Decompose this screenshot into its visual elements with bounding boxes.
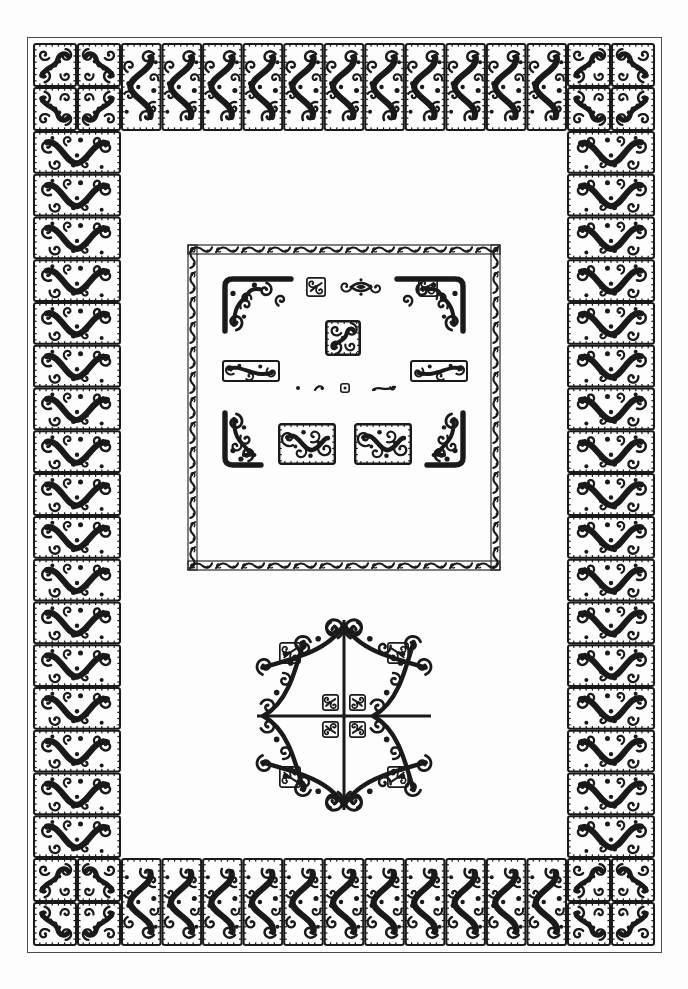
- notch-tick: [117, 49, 120, 50]
- notch-tick: [95, 854, 96, 857]
- bead-right: [476, 896, 481, 901]
- notch-tick: [610, 218, 611, 221]
- block-bead-top: [301, 430, 306, 435]
- notch-tick: [95, 512, 96, 515]
- notch-tick: [641, 341, 642, 344]
- notch-tick: [568, 180, 571, 181]
- border-tile-right: [568, 645, 654, 686]
- notch-tick: [568, 870, 571, 871]
- notch-tick: [604, 645, 605, 648]
- notch-tick: [365, 939, 368, 940]
- spiral-eye: [641, 911, 644, 914]
- notch-tick: [58, 769, 59, 772]
- rosette-core: [631, 63, 636, 68]
- spiral-eye: [67, 525, 70, 528]
- notch-tick: [573, 641, 574, 644]
- notch-tick: [34, 889, 37, 890]
- notch-tick: [545, 859, 546, 862]
- spiral-eye: [315, 78, 318, 81]
- notch-tick: [442, 74, 445, 75]
- notch-tick: [117, 351, 120, 352]
- notch-tick: [607, 55, 610, 56]
- notch-tick: [58, 898, 59, 901]
- notch-tick: [117, 80, 120, 81]
- notch-tick: [180, 942, 181, 945]
- spiral-eye: [330, 94, 333, 97]
- notch-tick: [89, 641, 90, 644]
- notch-tick: [651, 162, 654, 163]
- notch-tick: [117, 736, 120, 737]
- notch-tick: [95, 773, 96, 776]
- notch-tick: [101, 683, 102, 686]
- notch-tick: [361, 920, 364, 921]
- notch-tick: [180, 859, 181, 862]
- border-tile-s-vertical: [244, 44, 283, 130]
- notch-tick: [78, 870, 81, 871]
- notch-tick: [89, 218, 90, 221]
- notch-tick: [34, 810, 37, 811]
- notch-tick: [623, 175, 624, 178]
- notch-tick: [58, 903, 59, 906]
- notch-tick: [101, 256, 102, 259]
- notch-tick: [52, 341, 53, 344]
- notch-tick: [320, 86, 323, 87]
- notch-tick: [568, 712, 571, 713]
- notch-tick: [442, 105, 445, 106]
- bead-ll: [530, 875, 534, 879]
- spiral-eye: [67, 268, 70, 271]
- notch-tick: [568, 669, 571, 670]
- notch-tick: [122, 901, 125, 902]
- rosette-bead-b: [627, 60, 631, 64]
- notch-tick: [203, 939, 206, 940]
- notch-tick: [332, 448, 335, 449]
- notch-tick: [101, 127, 102, 130]
- spiral-eye: [431, 931, 434, 934]
- notch-tick: [648, 170, 649, 173]
- bead-ur: [154, 60, 158, 64]
- notch-tick: [34, 748, 37, 749]
- notch-tick: [58, 512, 59, 515]
- bead-center: [177, 900, 181, 904]
- notch-tick: [651, 156, 654, 157]
- corner-rosette-tile: [34, 903, 76, 945]
- spiral-eye: [581, 572, 584, 575]
- border-tile-right: [568, 560, 654, 601]
- notch-tick: [244, 889, 247, 890]
- notch-tick: [573, 218, 574, 221]
- notch-tick: [58, 346, 59, 349]
- notch-tick: [568, 111, 571, 112]
- notch-tick: [122, 883, 125, 884]
- notch-tick: [52, 303, 53, 306]
- notch-tick: [70, 512, 71, 515]
- spiral-eye: [549, 115, 552, 118]
- notch-tick: [617, 298, 618, 301]
- notch-tick: [83, 731, 84, 734]
- spiral-eye: [587, 225, 590, 228]
- notch-tick: [114, 83, 115, 86]
- notch-tick: [34, 93, 37, 94]
- bead-br: [100, 593, 104, 597]
- notch-tick: [568, 205, 571, 206]
- notch-tick: [568, 797, 571, 798]
- notch-tick: [629, 384, 630, 387]
- notch-tick: [476, 44, 477, 47]
- notch-tick: [635, 427, 636, 430]
- spiral-eye: [104, 358, 107, 361]
- bead-bottom: [612, 547, 617, 552]
- notch-tick: [114, 773, 115, 776]
- notch-tick: [586, 769, 587, 772]
- notch-tick: [651, 400, 654, 401]
- border-tile-top: [487, 44, 526, 130]
- notch-tick: [635, 602, 636, 605]
- notch-tick: [117, 681, 120, 682]
- notch-tick: [280, 111, 283, 112]
- spiral-eye: [600, 248, 603, 251]
- bead-center: [75, 453, 79, 457]
- notch-tick: [617, 44, 618, 47]
- notch-tick: [117, 479, 120, 480]
- notch-tick: [34, 229, 37, 230]
- notch-tick: [623, 731, 624, 734]
- spiral-eye: [428, 871, 431, 874]
- notch-tick: [58, 341, 59, 344]
- notch-tick: [34, 437, 37, 438]
